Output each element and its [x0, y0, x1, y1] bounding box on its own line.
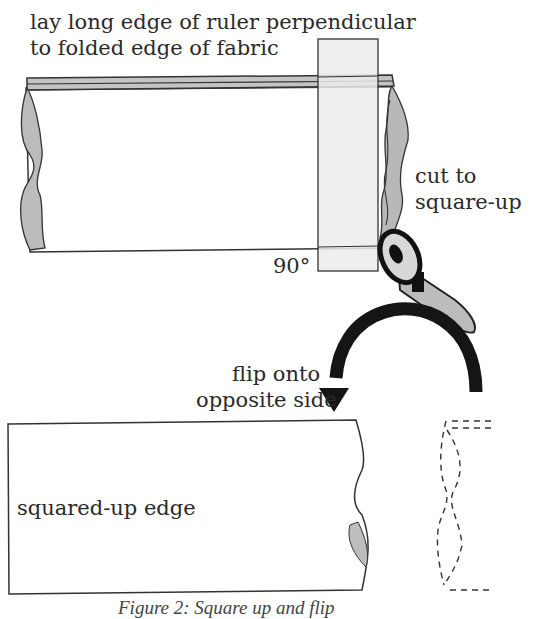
angle-label: 90° — [273, 254, 310, 279]
figure-caption: Figure 2: Square up and flip — [118, 597, 335, 619]
instruction-label-line1: lay long edge of ruler perpendicular — [30, 10, 416, 35]
flip-label-line1: flip onto — [232, 362, 320, 387]
cut-label-line2: square-up — [415, 190, 522, 215]
flip-arrow-icon — [319, 309, 476, 412]
ruler[interactable] — [318, 39, 378, 271]
instruction-label-line2: to folded edge of fabric — [30, 36, 279, 61]
cut-label-line1: cut to — [415, 164, 476, 189]
dashed-flipped-edge — [437, 421, 495, 590]
flip-label-line2: opposite side — [196, 388, 337, 413]
squared-edge-label: squared-up edge — [17, 496, 196, 521]
